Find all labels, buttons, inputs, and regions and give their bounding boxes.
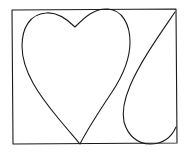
frame-rectangle	[12, 9, 177, 144]
line-drawing-canvas	[0, 0, 186, 153]
teardrop-shape-icon	[123, 12, 176, 144]
heart-shape-icon	[22, 9, 130, 144]
line-drawing	[0, 0, 186, 153]
